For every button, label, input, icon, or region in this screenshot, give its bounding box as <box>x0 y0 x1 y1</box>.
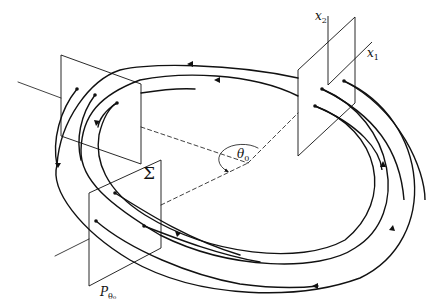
label-x2: x2 <box>315 10 327 25</box>
flow-right-middle <box>322 89 404 200</box>
axis-line-sigma <box>55 239 89 256</box>
label-theta0: θ0 <box>237 148 249 163</box>
arrow-right-middle <box>389 225 395 231</box>
axis-line-left <box>18 82 61 98</box>
flow-left-3 <box>98 103 117 127</box>
label-sigma: Σ <box>143 165 155 182</box>
label-x1: x1 <box>367 47 379 62</box>
left-plane <box>61 55 141 164</box>
flow-orbit-inner-top <box>141 89 195 93</box>
label-p-theta0: Pθ₀ <box>100 286 116 301</box>
right-plane <box>298 17 355 156</box>
radial-dashed-lines <box>141 113 298 205</box>
arrow-top-middle <box>214 77 220 83</box>
poincare-diagram: x2 x1 θ0 Σ Pθ₀ <box>0 0 437 306</box>
x1-axis <box>328 42 372 85</box>
arrow-bottom-outer <box>312 283 318 289</box>
